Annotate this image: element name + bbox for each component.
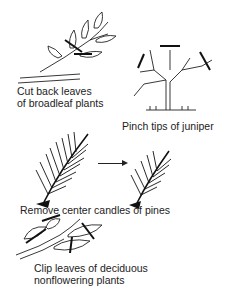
deciduous-branch-illustration — [10, 215, 105, 260]
right-arrow-icon — [98, 163, 124, 164]
caption-juniper: Pinch tips of juniper — [122, 120, 214, 132]
broadleaf-branch-illustration — [10, 10, 120, 85]
caption-deciduous-line1: Clip leaves of deciduous — [34, 262, 148, 274]
juniper-tree-illustration — [130, 40, 225, 115]
pine-candle-after-illustration — [125, 145, 175, 210]
caption-deciduous-line2: nonflowering plants — [34, 274, 124, 286]
caption-broadleaf-line1: Cut back leaves — [17, 85, 92, 97]
pine-candle-before-illustration — [30, 130, 90, 210]
caption-broadleaf-line2: of broadleaf plants — [17, 97, 103, 109]
